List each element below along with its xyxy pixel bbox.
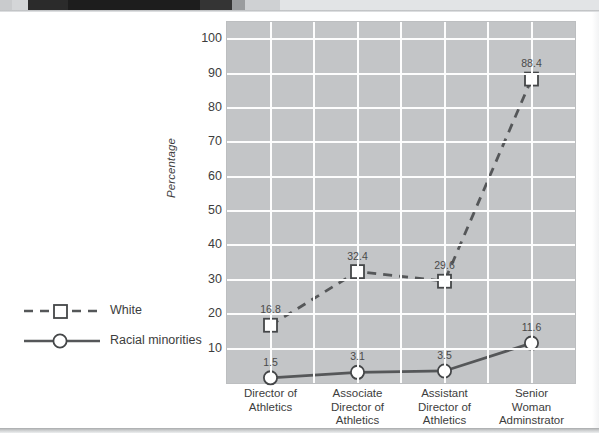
x-axis-category-labels: Director ofAthleticsAssociateDirector of… — [227, 387, 575, 433]
y-axis-tick: 90 — [188, 66, 222, 80]
x-axis-label-line: Athletics — [399, 414, 491, 428]
x-axis-label-line: Senior — [486, 387, 578, 401]
x-axis-label-line: Director of — [225, 387, 317, 401]
data-point-label: 3.5 — [422, 349, 468, 361]
gridline-vertical — [444, 22, 446, 383]
page-right-edge — [592, 12, 599, 428]
x-axis-label-line: Assistant — [399, 387, 491, 401]
gridline-vertical — [313, 22, 315, 383]
y-axis-tick: 60 — [188, 169, 222, 183]
y-axis-tick: 100 — [188, 31, 222, 45]
chart-legend: White Racial minorities — [22, 298, 212, 358]
x-axis-label-line: Athletics — [312, 414, 404, 428]
x-axis-category-label: AssociateDirector ofAthletics — [312, 387, 404, 428]
legend-swatch-dashed-square — [22, 298, 102, 324]
scan-artifact-top-bar — [0, 0, 599, 10]
data-point-label: 11.6 — [509, 321, 555, 333]
legend-label-racial-minorities: Racial minorities — [110, 333, 202, 347]
x-axis-category-label: AssistantDirector ofAthletics — [399, 387, 491, 428]
x-axis-label-line: Director of — [312, 401, 404, 415]
gridline-vertical — [400, 22, 402, 383]
data-point-label: 3.1 — [335, 350, 381, 362]
y-axis-tick: 70 — [188, 134, 222, 148]
y-axis-tick: 40 — [188, 237, 222, 251]
plot-area: 16.832.429.688.41.53.13.511.6 — [227, 22, 575, 383]
x-axis-label-line: Associate — [312, 387, 404, 401]
gridline-vertical — [270, 22, 272, 383]
x-axis-label-line: Director of — [399, 401, 491, 415]
data-point-label: 29.6 — [422, 259, 468, 271]
legend-item-racial-minorities: Racial minorities — [22, 328, 212, 358]
data-point-label: 1.5 — [248, 356, 294, 368]
y-axis-title: Percentage — [165, 108, 177, 228]
line-chart-figure: Percentage 102030405060708090100 16.832.… — [0, 12, 592, 428]
x-axis-label-line: Adminstrator — [486, 414, 578, 428]
data-point-label: 88.4 — [509, 57, 555, 69]
data-point-label: 16.8 — [248, 303, 294, 315]
data-point-label: 32.4 — [335, 250, 381, 262]
page-bottom-rule — [0, 428, 599, 433]
x-axis-category-label: SeniorWomanAdminstrator — [486, 387, 578, 428]
gridline-vertical — [357, 22, 359, 383]
legend-label-white: White — [110, 303, 142, 317]
y-axis-tick: 80 — [188, 100, 222, 114]
x-axis-category-label: Director ofAthletics — [225, 387, 317, 414]
gridline-vertical — [487, 22, 489, 383]
legend-item-white: White — [22, 298, 212, 328]
x-axis-label-line: Athletics — [225, 401, 317, 415]
y-axis-tick: 50 — [188, 203, 222, 217]
y-axis-tick: 30 — [188, 272, 222, 286]
x-axis-label-line: Woman — [486, 401, 578, 415]
legend-swatch-solid-circle — [22, 328, 102, 354]
